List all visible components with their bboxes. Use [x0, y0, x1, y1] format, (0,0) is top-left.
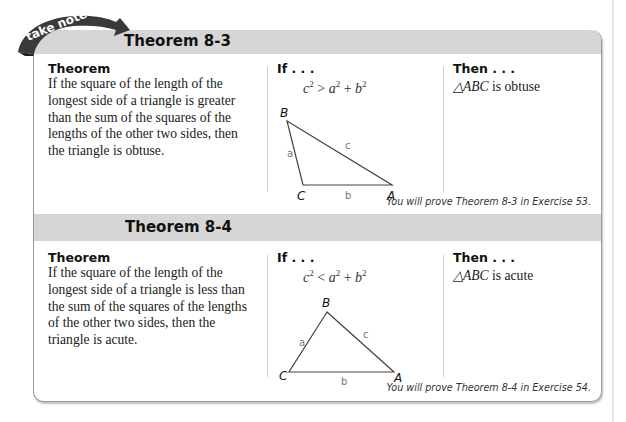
svg-text:c: c: [345, 140, 351, 151]
column-divider: [443, 66, 444, 192]
svg-text:a: a: [287, 148, 293, 159]
theorem-8-3-statement-column: Theorem If the square of the length of t…: [48, 61, 248, 160]
theorem-statement: If the square of the length of the longe…: [48, 265, 248, 349]
svg-text:C: C: [297, 189, 306, 201]
svg-text:B: B: [280, 106, 288, 120]
theorem-8-3-then-column: Then . . . △ABC is obtuse: [453, 61, 540, 95]
svg-text:C: C: [279, 369, 288, 383]
theorem-8-4-footnote: You will prove Theorem 8-4 in Exercise 5…: [387, 382, 591, 393]
theorem-8-4-if-column: If . . . c2 < a2 + b2 B C A a b c: [277, 250, 437, 390]
take-note-box: Theorem 8-3 Theorem If the square of the…: [33, 30, 602, 402]
if-label: If . . .: [277, 61, 437, 76]
then-label: Then . . .: [453, 61, 540, 76]
then-conclusion: △ABC is acute: [453, 267, 533, 284]
theorem-8-3-if-column: If . . . c2 > a2 + b2 B C A a b c: [277, 61, 437, 201]
svg-text:a: a: [299, 337, 305, 348]
theorem-statement: If the square of the length of the longe…: [48, 76, 248, 160]
obtuse-triangle-diagram: B C A a b c: [277, 101, 437, 201]
inequality-formula: c2 < a2 + b2: [303, 268, 367, 286]
theorem-8-4-statement-column: Theorem If the square of the length of t…: [48, 250, 248, 349]
theorem-label: Theorem: [48, 61, 248, 76]
if-label: If . . .: [277, 250, 437, 265]
theorem-title: Theorem 8-4: [125, 218, 232, 236]
acute-triangle-diagram: B C A a b c: [277, 288, 437, 388]
theorem-8-4-header: Theorem 8-4: [34, 214, 601, 241]
theorem-8-4-then-column: Then . . . △ABC is acute: [453, 250, 533, 284]
svg-text:take note: take note: [24, 8, 89, 44]
svg-text:b: b: [345, 190, 351, 201]
theorem-8-3-footnote: You will prove Theorem 8-3 in Exercise 5…: [387, 196, 591, 207]
svg-text:b: b: [341, 376, 347, 387]
column-divider: [443, 255, 444, 377]
column-divider: [267, 255, 268, 377]
theorem-label: Theorem: [48, 250, 248, 265]
take-note-banner: take note: [12, 8, 132, 56]
then-label: Then . . .: [453, 250, 533, 265]
page-edge: [612, 0, 614, 422]
theorem-title: Theorem 8-3: [124, 32, 231, 50]
inequality-formula: c2 > a2 + b2: [303, 79, 367, 97]
svg-text:B: B: [322, 296, 330, 310]
column-divider: [267, 66, 268, 192]
svg-text:c: c: [363, 329, 369, 340]
then-conclusion: △ABC is obtuse: [453, 78, 540, 95]
